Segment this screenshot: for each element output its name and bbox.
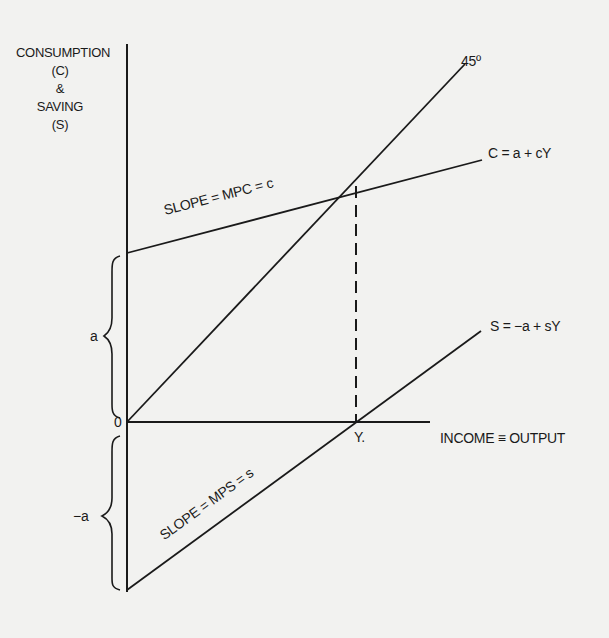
brace-negative-a xyxy=(102,436,120,590)
intercept-positive-label: a xyxy=(90,328,98,344)
y-axis-label-line: CONSUMPTION xyxy=(16,44,104,62)
y-axis-label-line: & xyxy=(16,80,104,98)
x-axis-label: INCOME ≡ OUTPUT xyxy=(440,430,565,446)
line-45-label: 45º xyxy=(461,53,481,69)
saving-line xyxy=(127,331,481,590)
break-even-income-label: Y. xyxy=(354,429,365,445)
diagram-canvas: CONSUMPTION (C) & SAVING (S) 45º C = a +… xyxy=(0,0,609,638)
saving-function-label: S = −a + sY xyxy=(490,318,560,334)
y-axis-label-line: (S) xyxy=(16,116,104,134)
origin-label: 0 xyxy=(114,414,122,430)
consumption-function-label: C = a + cY xyxy=(488,145,551,161)
brace-positive-a xyxy=(104,256,120,418)
y-axis-label-line: (C) xyxy=(16,62,104,80)
y-axis-label-line: SAVING xyxy=(16,98,104,116)
line-45-degree xyxy=(127,64,465,422)
intercept-negative-label: −a xyxy=(73,508,88,524)
y-axis-label: CONSUMPTION (C) & SAVING (S) xyxy=(16,44,104,134)
